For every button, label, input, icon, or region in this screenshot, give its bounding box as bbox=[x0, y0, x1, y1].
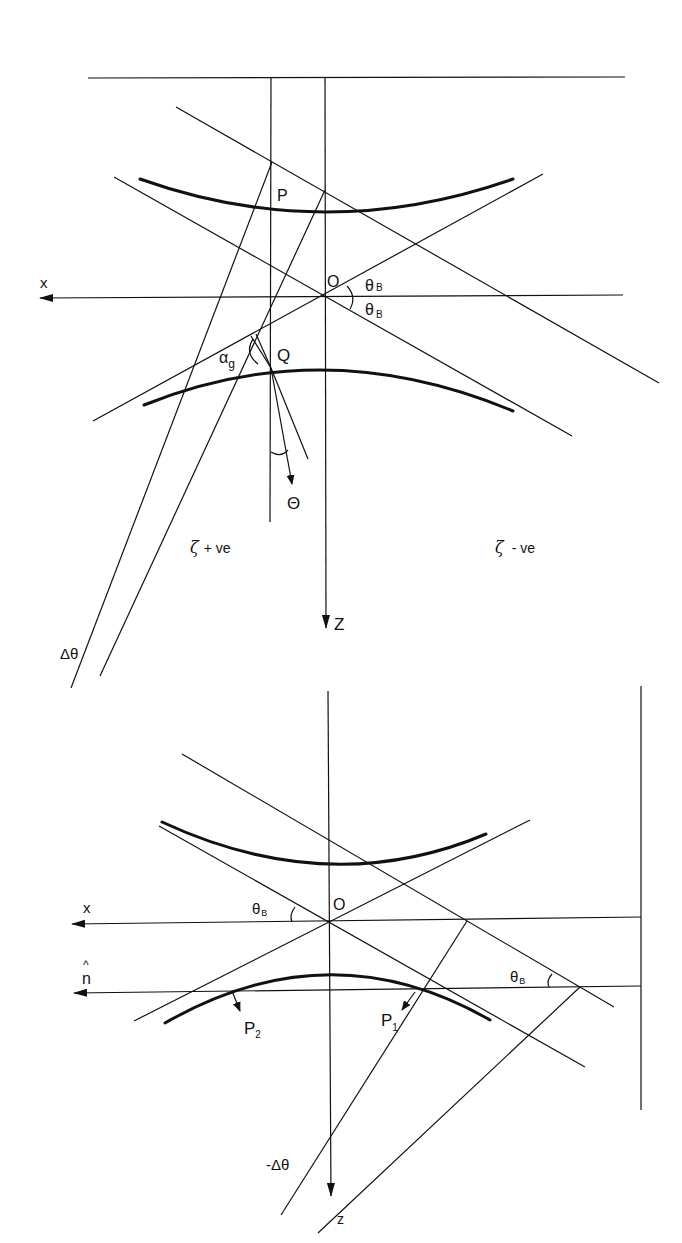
p1-label: P1 bbox=[381, 1011, 398, 1033]
upper-dispersion-curve-bottom bbox=[162, 822, 486, 864]
oblique-line-upper bbox=[176, 107, 659, 383]
zeta-negative-label: ζ- ve bbox=[495, 538, 535, 557]
ray-from-q-1 bbox=[271, 368, 308, 459]
n-hat-axis bbox=[74, 986, 641, 993]
alpha-g-tick-2 bbox=[256, 334, 271, 368]
lower-dispersion-curve bbox=[144, 370, 513, 411]
z-axis-bottom bbox=[328, 691, 331, 1196]
z-axis-label-bottom: z bbox=[337, 1211, 344, 1227]
x-axis-bottom bbox=[72, 917, 641, 924]
origin-label-bottom: O bbox=[333, 896, 345, 913]
theta-b-upper-label: θB bbox=[365, 277, 383, 294]
diagram-canvas: x Z O P Q θB θB αg Θ ζ+ ve ζ- ve Δθ bbox=[0, 0, 682, 1243]
theta-arrow bbox=[271, 368, 292, 484]
theta-b-lower-label: θB bbox=[365, 301, 383, 320]
x-axis bbox=[40, 295, 623, 298]
alpha-g-tick-1 bbox=[251, 336, 271, 368]
theta-b-arc-top bbox=[347, 286, 353, 309]
origin-label: O bbox=[327, 273, 339, 290]
top-boundary-line bbox=[88, 77, 625, 78]
p2-label: P2 bbox=[244, 1019, 261, 1040]
delta-theta-line-2 bbox=[100, 190, 325, 676]
theta-b-arc-left bbox=[291, 907, 295, 922]
x-axis-label: x bbox=[40, 274, 48, 291]
oblique-line-through-origin-2-bottom bbox=[134, 820, 530, 1021]
oblique-line-upper-bottom bbox=[182, 754, 614, 1007]
delta-theta-label: Δθ bbox=[60, 645, 78, 662]
theta-b-arc-right bbox=[548, 974, 552, 987]
big-theta-label: Θ bbox=[287, 494, 300, 513]
z-axis-label: Z bbox=[334, 615, 344, 634]
neg-delta-theta-line-2 bbox=[318, 987, 580, 1233]
point-p-label: P bbox=[277, 187, 288, 204]
lower-dispersion-curve-bottom bbox=[165, 975, 490, 1023]
alpha-g-label: αg bbox=[219, 349, 235, 371]
vertical-line-pq bbox=[270, 78, 271, 522]
figure-bottom: x ^ n z O θB θB P1 P2 -Δθ bbox=[72, 686, 641, 1233]
z-axis bbox=[325, 78, 326, 628]
neg-delta-theta-line-1 bbox=[281, 921, 467, 1215]
theta-b-right-label: θB bbox=[510, 968, 525, 986]
delta-theta-line-1 bbox=[71, 162, 272, 688]
upper-dispersion-curve bbox=[140, 179, 513, 212]
theta-b-left-label: θB bbox=[252, 900, 267, 918]
neg-delta-theta-label: -Δθ bbox=[266, 1156, 289, 1173]
figure-top: x Z O P Q θB θB αg Θ ζ+ ve ζ- ve Δθ bbox=[40, 77, 659, 688]
zeta-positive-label: ζ+ ve bbox=[190, 538, 231, 557]
point-q-label: Q bbox=[277, 346, 290, 365]
x-axis-label-bottom: x bbox=[83, 899, 91, 916]
p2-arrow bbox=[232, 991, 240, 1011]
n-hat-label: n bbox=[82, 970, 91, 987]
